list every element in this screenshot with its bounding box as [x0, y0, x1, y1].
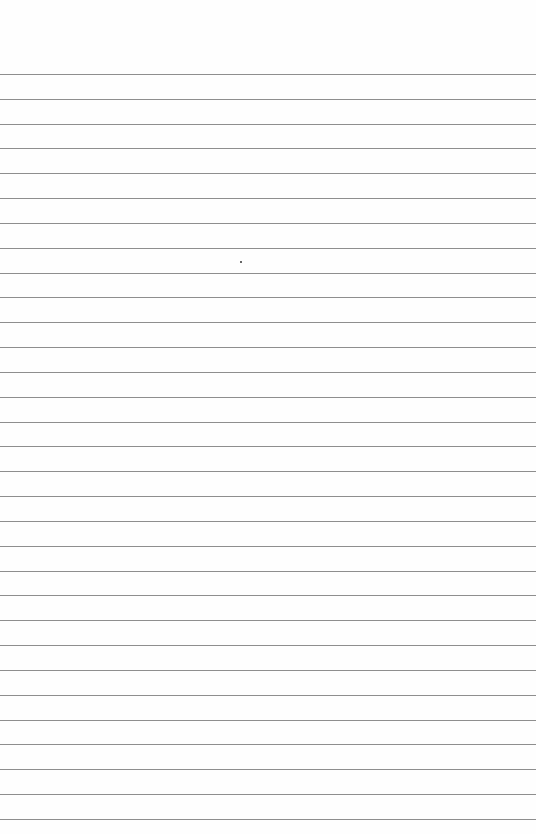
ruled-line	[0, 819, 536, 820]
ruled-line	[0, 347, 536, 348]
ruled-line	[0, 620, 536, 621]
ruled-line	[0, 397, 536, 398]
ruled-line	[0, 422, 536, 423]
ruled-line	[0, 496, 536, 497]
ruled-line	[0, 744, 536, 745]
ruled-line	[0, 124, 536, 125]
ink-dot	[240, 261, 242, 263]
ruled-line	[0, 471, 536, 472]
ruled-line	[0, 198, 536, 199]
ruled-line	[0, 794, 536, 795]
ruled-line	[0, 173, 536, 174]
ruled-line	[0, 446, 536, 447]
ruled-line	[0, 521, 536, 522]
ruled-line	[0, 595, 536, 596]
ruled-line	[0, 670, 536, 671]
ruled-line	[0, 769, 536, 770]
ruled-line	[0, 74, 536, 75]
ruled-line	[0, 322, 536, 323]
ruled-line	[0, 248, 536, 249]
ruled-line	[0, 571, 536, 572]
ruled-line	[0, 546, 536, 547]
ruled-line	[0, 223, 536, 224]
ruled-line	[0, 372, 536, 373]
ruled-line	[0, 99, 536, 100]
ruled-line	[0, 148, 536, 149]
lined-paper	[0, 0, 536, 834]
ruled-line	[0, 273, 536, 274]
ruled-line	[0, 720, 536, 721]
ruled-line	[0, 297, 536, 298]
ruled-line	[0, 695, 536, 696]
ruled-line	[0, 645, 536, 646]
